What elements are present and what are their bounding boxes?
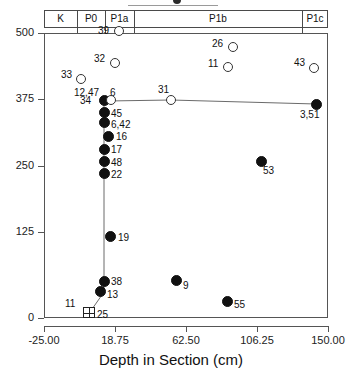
zone-separator-p1b-p1c [302,10,303,28]
data-label-19: 19 [118,233,129,243]
data-label-25: 25 [97,310,108,320]
data-point-26[interactable] [228,42,238,52]
data-label-32: 32 [94,54,105,64]
zone-label-p1b: P1b [209,14,227,24]
data-point-13[interactable] [95,286,106,297]
x-axis-title: Depth in Section (cm) [0,352,342,367]
data-label-13: 13 [107,290,118,300]
data-label-22: 22 [111,170,122,180]
data-label-6-42: 6,42 [111,120,130,130]
data-label-53: 53 [263,166,274,176]
zone-label-k: K [57,14,64,24]
x-tick-label-150: 150.00 [293,335,350,346]
data-label-26: 26 [212,39,223,49]
data-label-34: 34 [80,96,91,106]
x-tick-label-62-50: 62.50 [151,335,221,346]
cropped-top-marker [173,0,181,4]
data-point-33[interactable] [76,74,86,84]
data-point-6-42[interactable] [99,117,110,128]
y-tick-250 [38,166,44,167]
x-tick-label-18-75: 18.75 [80,335,150,346]
data-label-9: 9 [183,281,189,291]
data-point-55[interactable] [222,296,233,307]
data-label-3-51: 3,51 [300,110,319,120]
zone-separator-k-p0 [77,10,78,28]
data-label-31: 31 [158,85,169,95]
data-label-48: 48 [111,158,122,168]
data-label-16: 16 [116,132,127,142]
y-tick-500 [38,33,44,34]
zone-cell-p1c: P1c [302,10,328,28]
plot-frame [44,33,328,318]
zone-separator-p1a-p1b [134,10,135,28]
y-tick-label-0: 0 [0,312,34,323]
data-point-11-upper[interactable] [223,62,233,72]
zone-label-p1c: P1c [306,14,323,24]
y-tick-label-375: 375 [0,93,34,104]
x-tick-label--25: -25.00 [9,335,79,346]
x-tick-label-106-25: 106.25 [222,335,292,346]
data-point-19[interactable] [105,231,116,242]
data-point-43[interactable] [309,63,319,73]
y-tick-label-250: 250 [0,160,34,171]
zone-cell-p1b: P1b [134,10,302,28]
data-point-48[interactable] [99,156,110,167]
y-tick-label-500: 500 [0,27,34,38]
y-tick-label-125: 125 [0,226,34,237]
data-label-11-upper: 11 [208,59,218,69]
data-label-39: 39 [98,26,109,36]
zone-cell-k: K [44,10,77,28]
x-tick-150 [328,326,329,332]
data-label-33: 33 [61,70,72,80]
y-tick-0 [38,318,44,319]
data-point-31[interactable] [166,95,176,105]
x-tick--25 [44,326,45,332]
data-point-6-top[interactable] [106,95,116,105]
data-label-55: 55 [234,300,245,310]
y-tick-375 [38,99,44,100]
data-label-17: 17 [111,145,122,155]
x-tick-106-25 [257,326,258,332]
data-point-9[interactable] [171,275,182,286]
data-point-11-25-square[interactable] [83,307,95,318]
data-label-45: 45 [111,109,122,119]
data-label-43: 43 [294,58,305,68]
y-tick-125 [38,232,44,233]
x-tick-18-75 [115,326,116,332]
data-point-16[interactable] [103,131,114,142]
zone-label-p0: P0 [85,14,97,24]
data-label-38: 38 [111,277,122,287]
x-tick-62-50 [186,326,187,332]
data-point-22[interactable] [99,168,110,179]
data-point-32[interactable] [110,58,120,68]
data-point-39[interactable] [114,26,124,36]
cropped-top-rule [128,5,218,6]
data-label-11-lower: 11 [65,299,75,309]
zone-label-p1a: P1a [111,14,129,24]
data-point-17[interactable] [99,144,110,155]
